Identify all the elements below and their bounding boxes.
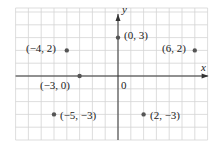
point-label-2-neg3: (2, −3)	[150, 110, 180, 121]
coordinate-plane	[0, 0, 217, 148]
plotted-point	[65, 48, 69, 52]
point-label-6-2: (6, 2)	[162, 43, 186, 54]
point-label-neg3-0: (−3, 0)	[40, 80, 70, 91]
plotted-point	[193, 48, 197, 52]
origin-label: 0	[121, 80, 127, 91]
point-label-neg5-neg3: (−5, −3)	[60, 110, 96, 121]
point-label-0-3: (0, 3)	[124, 30, 148, 41]
plotted-point	[141, 112, 145, 116]
plotted-point	[116, 35, 120, 39]
plotted-point	[52, 112, 56, 116]
plotted-point	[77, 74, 81, 78]
y-axis-arrow-icon	[116, 14, 121, 21]
x-axis-label: x	[201, 62, 206, 73]
point-label-neg4-2: (−4, 2)	[26, 43, 56, 54]
y-axis-label: y	[122, 4, 127, 15]
